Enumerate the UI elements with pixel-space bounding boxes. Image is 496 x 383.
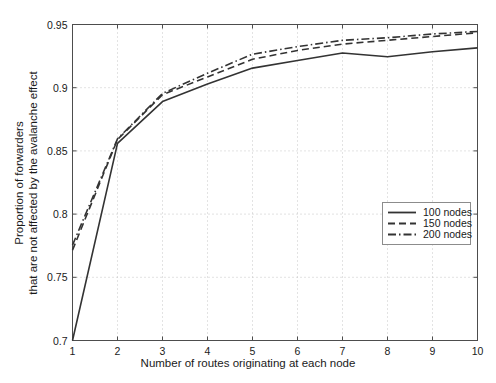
legend-label: 200 nodes — [423, 229, 472, 240]
figure-canvas: 0.70.750.80.850.90.95 12345678910 Number… — [0, 0, 496, 383]
plot-frame — [73, 25, 478, 341]
y-tick-label: 0.7 — [53, 335, 68, 347]
legend-line-sample — [387, 207, 417, 218]
y-tick-label: 0.95 — [47, 19, 67, 31]
gridlines — [73, 25, 478, 341]
x-axis-label: Number of routes originating at each nod… — [0, 357, 496, 369]
y-axis-label-line1: Proportion of forwarders — [12, 23, 26, 343]
y-axis-label-line2: that are not affected by the avalanche e… — [26, 23, 40, 343]
y-tick-label: 0.8 — [53, 208, 68, 220]
legend-line-sample — [387, 229, 417, 240]
chart-plot — [0, 0, 496, 383]
series-line — [73, 48, 478, 341]
x-tick-label: 10 — [472, 345, 484, 357]
x-tick-label: 5 — [250, 345, 256, 357]
y-tick-label: 0.85 — [47, 145, 67, 157]
x-tick-label: 1 — [70, 345, 76, 357]
chart-legend: 100 nodes150 nodes200 nodes — [382, 202, 471, 245]
x-tick-label: 3 — [160, 345, 166, 357]
y-axis-label: Proportion of forwarders that are not af… — [12, 23, 40, 343]
data-series-group — [73, 31, 478, 340]
legend-item: 200 nodes — [387, 229, 465, 240]
x-tick-label: 9 — [430, 345, 436, 357]
x-tick-label: 8 — [385, 345, 391, 357]
axis-ticks — [73, 25, 478, 341]
y-tick-label: 0.75 — [47, 271, 67, 283]
legend-line-sample — [387, 218, 417, 229]
x-tick-label: 7 — [340, 345, 346, 357]
y-tick-label: 0.9 — [53, 82, 68, 94]
x-tick-label: 6 — [295, 345, 301, 357]
x-tick-label: 2 — [115, 345, 121, 357]
x-tick-label: 4 — [205, 345, 211, 357]
